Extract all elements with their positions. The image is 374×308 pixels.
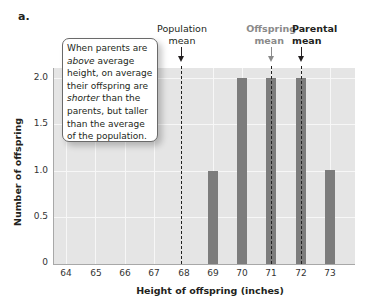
callout-line: When parents are (67, 42, 153, 55)
x-tick-label: 72 (291, 268, 311, 278)
gridline-y-1.0 (53, 171, 355, 172)
x-axis-line (53, 264, 355, 265)
callout-emphasis: shorter (67, 93, 99, 103)
callout-line: of the population. (67, 130, 153, 143)
callout-text: average (95, 56, 135, 66)
bar-69 (208, 171, 218, 264)
offspring-mean-label: Offspring mean (236, 23, 296, 47)
offspring-mean-line (271, 66, 272, 264)
y-tick-label: 0 (26, 257, 48, 267)
x-tick-label: 64 (56, 268, 76, 278)
x-tick-label: 71 (261, 268, 281, 278)
callout-line: parents, but taller (67, 105, 153, 118)
callout-emphasis: above (67, 56, 95, 66)
callout-line: than the average (67, 118, 153, 131)
bar-70 (237, 78, 247, 264)
x-axis-title: Height of offspring (inches) (110, 285, 310, 296)
offspring-mean-arrow-icon (268, 56, 274, 62)
y-axis-line (53, 68, 54, 264)
bar-73 (325, 170, 335, 264)
x-tick-label: 67 (144, 268, 164, 278)
gridline-y-0.5 (53, 217, 355, 218)
population-mean-line (181, 66, 182, 264)
y-axis-title: Number of offspring (12, 118, 23, 226)
y-tick-label: 0.5 (26, 211, 48, 221)
offspring-mean-arrow-shaft (271, 47, 272, 56)
parental-mean-label: Parental mean (292, 23, 352, 47)
parental-mean-arrow-icon (298, 56, 304, 62)
callout-box: When parents are above average height, o… (62, 38, 158, 142)
offspring-mean-label-line1: Offspring (236, 23, 296, 35)
population-mean-label-line1: Population (146, 23, 218, 35)
population-mean-arrow-icon (178, 56, 184, 62)
y-tick-label: 1.5 (26, 118, 48, 128)
callout-text: than the (99, 93, 140, 103)
x-tick-label: 66 (115, 268, 135, 278)
parental-mean-label-line1: Parental (292, 23, 352, 35)
callout-line: height, on average (67, 67, 153, 80)
parental-mean-line (301, 66, 302, 264)
panel-label: a. (18, 10, 30, 23)
x-tick-label: 73 (320, 268, 340, 278)
x-tick-label: 68 (174, 268, 194, 278)
callout-line: shorter than the (67, 92, 153, 105)
x-tick-label: 65 (86, 268, 106, 278)
x-tick-label: 70 (232, 268, 252, 278)
offspring-mean-label-line2: mean (236, 35, 296, 47)
callout-line: their offspring are (67, 80, 153, 93)
parental-mean-arrow-shaft (301, 47, 302, 56)
parental-mean-label-line2: mean (292, 35, 352, 47)
population-mean-arrow-shaft (181, 47, 182, 56)
callout-line: above average (67, 55, 153, 68)
y-tick-label: 1.0 (26, 165, 48, 175)
x-tick-label: 69 (203, 268, 223, 278)
y-tick-label: 2.0 (26, 72, 48, 82)
